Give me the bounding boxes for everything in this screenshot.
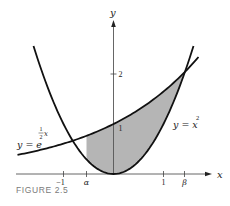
curve-label-exponential: y = e bbox=[16, 139, 42, 150]
y-axis-label: y bbox=[109, 7, 116, 18]
x-tick-label: 1 bbox=[162, 178, 166, 187]
x-tick-label: β bbox=[181, 178, 187, 187]
figure-caption: FIGURE 2.5 bbox=[16, 185, 68, 195]
y-tick-label: 1 bbox=[119, 124, 123, 133]
parabola-exponent: 2 bbox=[196, 114, 199, 121]
exponent-variable: x bbox=[44, 130, 48, 138]
exponent-numerator: 1 bbox=[40, 126, 43, 132]
figure-2-5: −1α1β 12 x y y = e 1 2 x y = x 2 FIGURE … bbox=[0, 0, 230, 206]
y-axis-arrow-icon bbox=[111, 20, 116, 27]
curve-label-parabola: y = x bbox=[172, 119, 198, 130]
y-tick-label: 2 bbox=[119, 70, 123, 79]
x-axis-arrow-icon bbox=[205, 172, 212, 177]
x-tick-label: α bbox=[84, 178, 90, 187]
x-axis-label: x bbox=[217, 169, 223, 180]
exponent-denominator: 2 bbox=[40, 134, 43, 140]
shaded-region bbox=[87, 72, 185, 174]
